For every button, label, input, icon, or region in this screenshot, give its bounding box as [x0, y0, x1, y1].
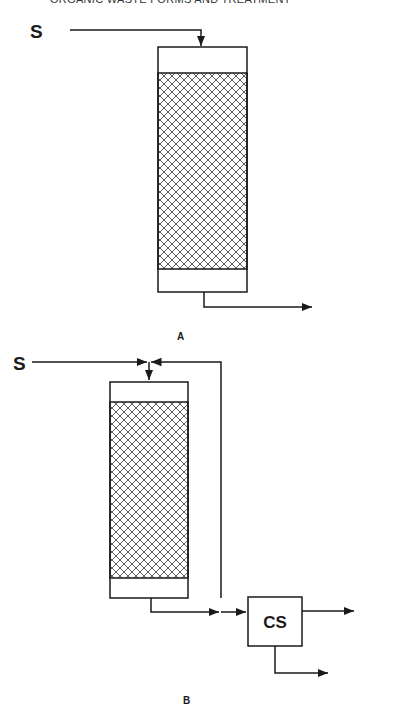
outlet-line-b: [151, 598, 219, 612]
separator-label: CS: [263, 613, 287, 632]
diagram-b: S CS B: [13, 353, 354, 706]
outlet-line-a: [204, 292, 312, 307]
inlet-label-a: S: [30, 21, 43, 42]
inlet-label-b: S: [13, 353, 26, 374]
caption-b: B: [183, 695, 190, 706]
packed-bed-a: [158, 73, 247, 269]
separator-outlet-bottom: [275, 646, 328, 673]
inlet-line-a: [70, 30, 201, 46]
process-diagram: S A S CS B: [0, 0, 396, 720]
caption-a: A: [177, 331, 184, 342]
diagram-a: S A: [30, 21, 312, 342]
packed-bed-b: [110, 402, 188, 578]
